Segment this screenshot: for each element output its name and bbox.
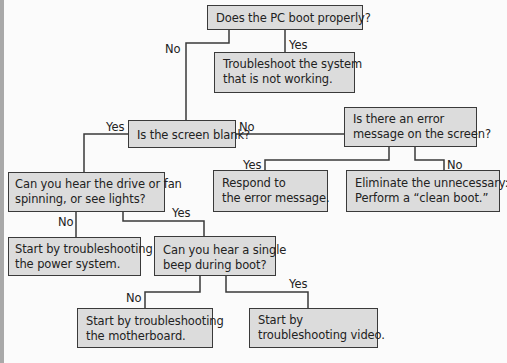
node-text-line: Can you hear a single [163, 243, 267, 258]
node-text-line: the motherboard. [86, 329, 204, 344]
decision-error-message: Is there an error message on the screen? [344, 107, 477, 147]
edge-label-drive-no: No [58, 216, 74, 228]
node-text-line: Start by troubleshooting [86, 314, 204, 329]
edge-label-beep-no: No [126, 292, 142, 304]
node-text-line: Respond to [222, 176, 319, 191]
node-text-line: Start by troubleshooting [15, 242, 132, 257]
edge-label-error-yes: Yes [243, 159, 262, 171]
edge-label-blank-no: No [239, 121, 255, 133]
edge-label-drive-yes: Yes [172, 207, 191, 219]
decision-single-beep: Can you hear a single beep during boot? [154, 236, 276, 276]
decision-drive-fan: Can you hear the drive or fan spinning, … [8, 172, 165, 212]
node-text-line: Troubleshoot the system [223, 57, 346, 72]
edge-label-boot-no: No [165, 43, 181, 55]
node-text-line: Does the PC boot properly? [216, 11, 354, 26]
node-text-line: Eliminate the unnecessary: [355, 176, 491, 191]
edge-label-beep-yes: Yes [289, 278, 308, 290]
node-text-line: message on the screen? [353, 127, 468, 142]
action-power-system: Start by troubleshooting the power syste… [8, 237, 141, 276]
node-text-line: spinning, or see lights? [15, 192, 156, 207]
action-motherboard: Start by troubleshooting the motherboard… [77, 308, 213, 348]
node-text-line: the power system. [15, 257, 132, 272]
node-text-line: Perform a “clean boot.” [355, 191, 491, 206]
node-text-line: Is the screen blank? [137, 128, 227, 143]
decision-boot-properly: Does the PC boot properly? [207, 5, 363, 30]
decision-screen-blank: Is the screen blank? [128, 120, 236, 148]
node-text-line: Start by [258, 313, 369, 328]
action-video: Start by troubleshooting video. [249, 308, 378, 348]
action-clean-boot: Eliminate the unnecessary: Perform a “cl… [346, 170, 500, 212]
node-text-line: the error message. [222, 191, 319, 206]
edge-label-blank-yes: Yes [106, 121, 125, 133]
node-text-line: Is there an error [353, 112, 468, 127]
edge-label-boot-yes: Yes [289, 39, 308, 51]
node-text-line: Can you hear the drive or fan [15, 177, 156, 192]
node-text-line: that is not working. [223, 72, 346, 87]
node-text-line: troubleshooting video. [258, 328, 369, 343]
edge-label-error-no: No [447, 159, 463, 171]
node-text-line: beep during boot? [163, 258, 267, 273]
action-respond-error: Respond to the error message. [213, 170, 328, 212]
action-troubleshoot-system: Troubleshoot the system that is not work… [214, 52, 355, 93]
